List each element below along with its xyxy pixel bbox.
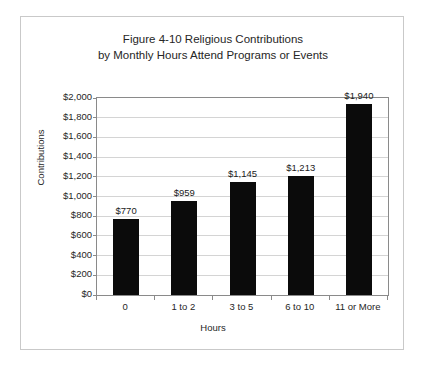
bar-value-label: $959 [152,188,216,198]
bar [113,219,139,295]
x-axis-tick [329,296,330,300]
y-axis-tick [93,196,97,197]
x-axis-tick [271,296,272,300]
y-axis-tick [93,117,97,118]
y-axis-tick-label: $1,000 [46,191,92,201]
y-axis-tick [93,137,97,138]
x-axis-tick-label: 11 or More [323,301,393,312]
y-axis-tick [93,255,97,256]
y-axis-tick-label: $1,200 [46,171,92,181]
y-axis-tick-label: $1,600 [46,132,92,142]
gridline [97,157,388,158]
y-axis-tick-label: $0 [46,289,92,299]
gridline [97,117,388,118]
y-axis-tick-label: $1,400 [46,151,92,161]
y-axis-tick [93,157,97,158]
plot-area: $770$959$1,145$1,213$1,940 [96,97,389,296]
y-axis-tick [93,176,97,177]
x-axis-title: Hours [21,322,405,333]
bar-value-label: $1,213 [269,163,333,173]
bar [230,182,256,295]
x-axis-tick-labels: 01 to 23 to 56 to 1011 or More [96,301,389,315]
y-axis-tick-label: $400 [46,250,92,260]
y-axis-tick-label: $600 [46,230,92,240]
gridline [97,137,388,138]
bar [171,201,197,295]
bar [288,176,314,295]
chart-title-line-2: by Monthly Hours Attend Programs or Even… [21,47,405,63]
bar-value-label: $1,940 [327,91,391,101]
y-axis-tick [93,98,97,99]
bar-value-label: $1,145 [211,169,275,179]
y-axis-tick [93,216,97,217]
x-axis-tick [212,296,213,300]
y-axis-tick-labels: $2,000$1,800$1,600$1,400$1,200$1,000$800… [42,97,92,296]
y-axis-tick-label: $200 [46,270,92,280]
figure-frame: Figure 4-10 Religious Contributions by M… [20,16,404,350]
bar [346,104,372,295]
chart-title: Figure 4-10 Religious Contributions by M… [21,31,405,63]
chart-title-line-1: Figure 4-10 Religious Contributions [21,31,405,47]
y-axis-tick-label: $800 [46,210,92,220]
y-axis-tick-label: $2,000 [46,92,92,102]
y-axis-tick-label: $1,800 [46,112,92,122]
x-axis-tick [154,296,155,300]
bar-value-label: $770 [94,206,158,216]
x-axis-tick [387,296,388,300]
y-axis-tick [93,275,97,276]
y-axis-tick [93,235,97,236]
x-axis-tick [96,296,97,300]
